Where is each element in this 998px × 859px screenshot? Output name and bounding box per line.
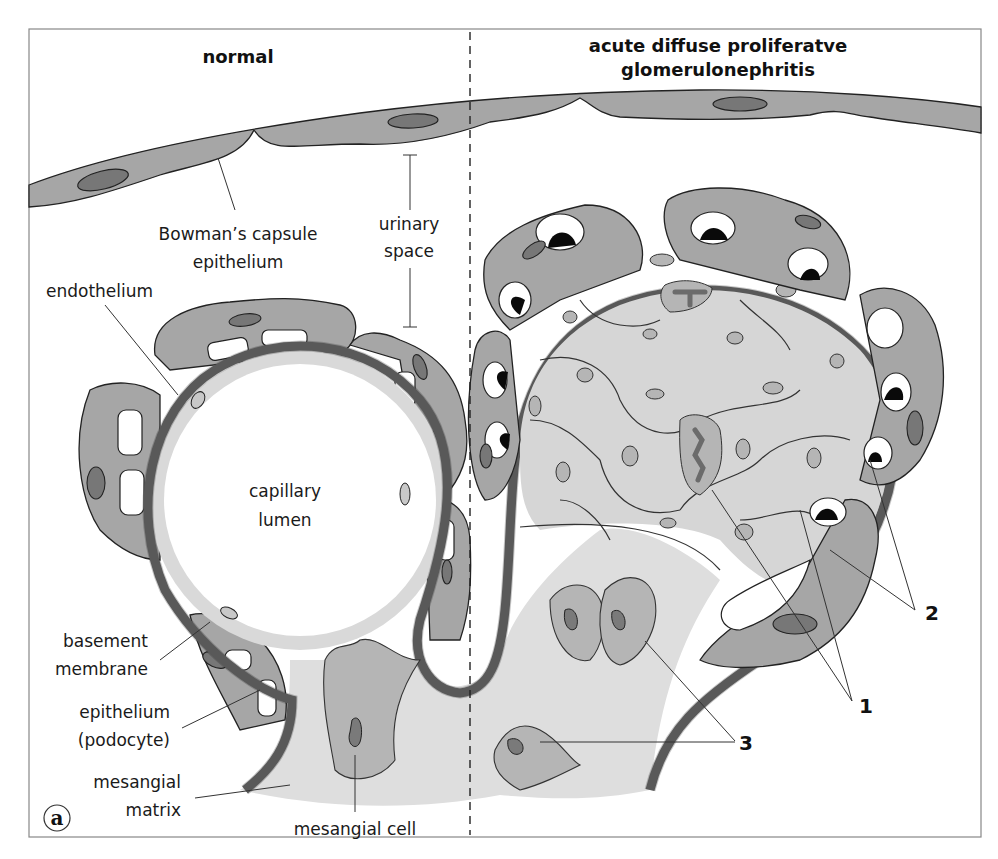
capsule-nucleus xyxy=(713,97,767,111)
label-matrix-line1: mesangial xyxy=(93,772,181,792)
callout-2: 2 xyxy=(925,601,939,625)
panel-letter: a xyxy=(51,806,64,830)
title-agn-line1: acute diffuse proliferatve xyxy=(589,35,847,56)
label-matrix-line2: matrix xyxy=(126,800,181,820)
callout-3: 3 xyxy=(739,731,753,755)
panel-letter-badge: a xyxy=(44,805,70,831)
label-bowman-line2: epithelium xyxy=(193,252,284,272)
label-epithelium-line1: epithelium xyxy=(79,702,170,722)
label-urinary-line2: space xyxy=(384,241,434,261)
label-urinary-line1: urinary xyxy=(379,214,440,234)
label-basement-line2: membrane xyxy=(55,659,148,679)
label-capillary-line2: lumen xyxy=(258,510,311,530)
glomerulus-diagram: normal acute diffuse proliferatve glomer… xyxy=(0,0,998,859)
title-normal: normal xyxy=(202,46,273,67)
label-mesangial-cell: mesangial cell xyxy=(294,819,416,839)
label-endothelium: endothelium xyxy=(46,281,153,301)
label-bowman-line1: Bowman’s capsule xyxy=(159,224,318,244)
label-basement-line1: basement xyxy=(63,631,148,651)
callout-1: 1 xyxy=(859,694,873,718)
label-capillary-line1: capillary xyxy=(249,481,321,501)
title-agn-line2: glomerulonephritis xyxy=(621,59,815,80)
label-epithelium-line2: (podocyte) xyxy=(78,730,170,750)
